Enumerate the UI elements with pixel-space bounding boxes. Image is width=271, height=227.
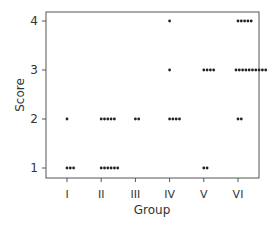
x-tick-label: II — [98, 188, 105, 201]
data-point — [206, 69, 209, 72]
data-point — [254, 69, 257, 72]
y-tick-label: 3 — [30, 63, 38, 77]
dot-plot-chart: 1234 IIIIIIIVVVI Score Group — [0, 0, 271, 227]
data-point — [261, 69, 264, 72]
data-point — [137, 118, 140, 121]
data-point — [243, 20, 246, 23]
data-point — [113, 167, 116, 170]
data-point — [247, 20, 250, 23]
data-point — [106, 167, 109, 170]
data-point — [202, 167, 205, 170]
data-point — [258, 69, 261, 72]
data-point — [240, 118, 243, 121]
data-point — [238, 69, 241, 72]
x-axis-label: Group — [134, 203, 171, 217]
data-point — [168, 69, 171, 72]
x-tick-label: VI — [233, 188, 244, 201]
data-point — [172, 118, 175, 121]
data-point — [206, 167, 209, 170]
data-point — [212, 69, 215, 72]
y-tick-label: 4 — [30, 14, 38, 28]
data-point — [245, 69, 248, 72]
y-axis: 1234 — [30, 14, 46, 175]
data-point — [178, 118, 181, 121]
y-tick-label: 1 — [30, 161, 38, 175]
data-point — [241, 69, 244, 72]
data-point — [168, 118, 171, 121]
data-point — [202, 69, 205, 72]
data-point — [113, 118, 116, 121]
data-point — [251, 69, 254, 72]
data-point — [248, 69, 251, 72]
data-point — [240, 20, 243, 23]
y-tick-label: 2 — [30, 112, 38, 126]
data-point — [168, 20, 171, 23]
data-point — [134, 118, 137, 121]
y-axis-label: Score — [13, 78, 27, 112]
data-point — [66, 167, 69, 170]
plot-frame — [46, 12, 259, 178]
data-points — [66, 20, 268, 170]
data-point — [103, 118, 106, 121]
x-tick-label: III — [131, 188, 141, 201]
data-point — [237, 20, 240, 23]
x-tick-label: IV — [164, 188, 175, 201]
data-point — [264, 69, 267, 72]
data-point — [116, 167, 119, 170]
x-tick-label: V — [200, 188, 208, 201]
data-point — [100, 118, 103, 121]
x-axis: IIIIIIIVVVI — [65, 178, 243, 201]
data-point — [110, 118, 113, 121]
data-point — [72, 167, 75, 170]
x-tick-label: I — [65, 188, 68, 201]
data-point — [69, 167, 72, 170]
data-point — [237, 118, 240, 121]
data-point — [106, 118, 109, 121]
data-point — [103, 167, 106, 170]
data-point — [66, 118, 69, 121]
data-point — [250, 20, 253, 23]
data-point — [235, 69, 238, 72]
data-point — [209, 69, 212, 72]
data-point — [100, 167, 103, 170]
data-point — [110, 167, 113, 170]
data-point — [175, 118, 178, 121]
